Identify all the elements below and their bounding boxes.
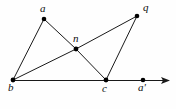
segment-a-n	[44, 19, 76, 49]
vertex-dot-n	[74, 47, 79, 52]
segment-n-c	[76, 49, 106, 80]
geometry-figure: a q n b c a'	[0, 0, 176, 109]
vertex-label-n: n	[73, 33, 79, 44]
segment-b-a	[13, 19, 44, 80]
segment-b-n	[13, 49, 76, 80]
vertex-dot-group	[11, 14, 146, 83]
vertex-label-b: b	[8, 82, 14, 93]
axis-ray-group	[13, 77, 170, 84]
vertex-label-a: a	[40, 3, 46, 14]
vertex-label-c: c	[102, 83, 107, 94]
segment-c-q	[106, 16, 137, 80]
vertex-label-a-prime: a'	[138, 82, 146, 93]
vertex-dot-q	[135, 14, 140, 19]
segment-n-q	[76, 16, 137, 49]
vertex-label-q: q	[143, 2, 149, 13]
figure-canvas	[0, 0, 176, 109]
vertex-dot-a	[42, 17, 47, 22]
